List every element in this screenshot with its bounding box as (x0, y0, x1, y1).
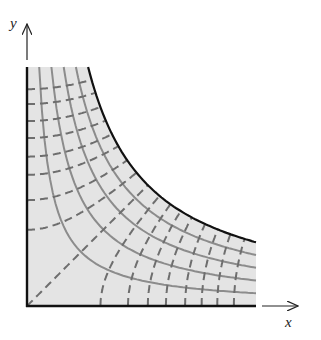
hyperbolic-coordinates-figure: y x (0, 0, 321, 340)
y-axis-label: y (8, 15, 17, 31)
shaded-region (27, 67, 256, 306)
x-axis-label: x (284, 314, 292, 330)
